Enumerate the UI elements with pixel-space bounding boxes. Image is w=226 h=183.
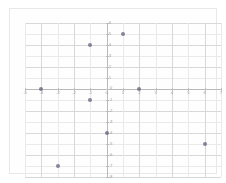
- x-axis-tick-label: 5: [187, 91, 189, 95]
- x-axis-tick-label: -5: [23, 91, 27, 95]
- x-axis-tick-label: 0: [105, 91, 107, 95]
- y-axis-tick-label: -2: [109, 109, 113, 113]
- x-axis-tick-label: 3: [154, 91, 156, 95]
- x-axis-tick-label: -2: [72, 91, 76, 95]
- gridline-vertical: [205, 23, 206, 177]
- data-point: [137, 87, 141, 91]
- y-axis-tick-label: -1: [109, 98, 113, 102]
- y-axis-tick-label: 1: [109, 76, 111, 80]
- gridline-horizontal: [25, 177, 221, 178]
- x-axis-tick-label: -1: [88, 91, 92, 95]
- y-axis-tick-label: -6: [109, 153, 113, 157]
- x-axis-tick-label: 1: [122, 91, 124, 95]
- x-axis-tick-label: 6: [203, 91, 205, 95]
- y-axis-tick-label: -4: [109, 131, 113, 135]
- data-point: [105, 131, 109, 135]
- y-axis-tick-label: -7: [109, 164, 113, 168]
- y-axis-tick-label: 3: [109, 54, 111, 58]
- gridline-vertical: [74, 23, 75, 177]
- gridline-vertical: [221, 23, 222, 177]
- data-point: [88, 43, 92, 47]
- gridline-vertical: [156, 23, 157, 177]
- gridline-vertical: [25, 23, 26, 177]
- gridline-vertical: [172, 23, 173, 177]
- y-axis-tick-label: -3: [109, 120, 113, 124]
- y-axis-tick-label: 5: [109, 32, 111, 36]
- data-point: [88, 98, 92, 102]
- y-axis-tick-label: 2: [109, 65, 111, 69]
- y-axis-tick-label: 4: [109, 43, 111, 47]
- data-point: [56, 164, 60, 168]
- y-axis-tick: [106, 89, 109, 90]
- x-axis-tick-label: -3: [56, 91, 60, 95]
- y-axis-tick-label: 6: [109, 21, 111, 25]
- gridline-vertical: [123, 23, 124, 177]
- x-axis-tick-label: 2: [138, 91, 140, 95]
- y-axis-tick-label: -8: [109, 175, 113, 179]
- gridline-vertical: [139, 23, 140, 177]
- x-axis-tick-label: 4: [171, 91, 173, 95]
- scatter-plot-page: -5-4-3-2-101234567654321-1-2-3-4-5-6-7-8…: [0, 0, 226, 183]
- gridline-vertical: [41, 23, 42, 177]
- y-axis-tick-label: -5: [109, 142, 113, 146]
- gridline-vertical: [58, 23, 59, 177]
- origin-label: 0: [110, 86, 112, 90]
- plot-area: -5-4-3-2-101234567654321-1-2-3-4-5-6-7-8…: [25, 23, 221, 177]
- gridline-vertical: [188, 23, 189, 177]
- x-axis-tick-label: -4: [39, 91, 43, 95]
- x-axis-tick-label: 7: [220, 91, 222, 95]
- data-point: [203, 142, 207, 146]
- paper-frame: -5-4-3-2-101234567654321-1-2-3-4-5-6-7-8…: [9, 8, 217, 174]
- data-point: [121, 32, 125, 36]
